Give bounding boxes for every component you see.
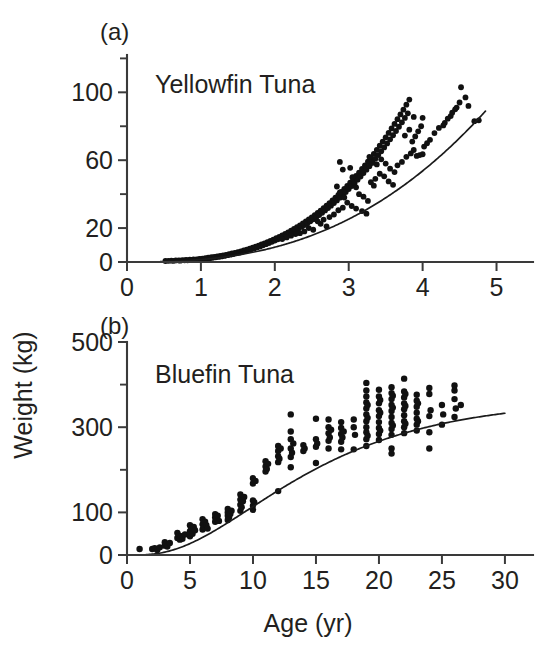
data-point xyxy=(314,440,320,446)
data-point xyxy=(290,440,296,446)
data-point xyxy=(363,387,369,393)
data-point xyxy=(252,478,258,484)
data-point xyxy=(426,445,432,451)
panel-a-label: (a) xyxy=(100,18,129,45)
y-axis-title: Weight (kg) xyxy=(9,331,37,458)
data-point xyxy=(451,414,457,420)
data-point xyxy=(340,167,346,173)
data-point xyxy=(351,424,357,430)
x-tick-label: 30 xyxy=(491,566,519,594)
data-point xyxy=(420,151,426,157)
data-point xyxy=(451,396,457,402)
data-point xyxy=(216,518,222,524)
data-point xyxy=(364,402,370,408)
y-tick-label: 100 xyxy=(71,78,113,106)
data-point xyxy=(411,114,417,120)
x-tick-label: 0 xyxy=(120,273,134,301)
y-tick-label: 0 xyxy=(99,248,113,276)
data-point xyxy=(341,195,347,201)
x-tick-label: 1 xyxy=(194,273,208,301)
x-tick-label: 5 xyxy=(183,566,197,594)
data-point xyxy=(445,116,451,122)
data-point xyxy=(466,103,472,109)
data-point xyxy=(440,411,446,417)
data-point xyxy=(376,419,382,425)
data-point xyxy=(458,402,464,408)
data-point xyxy=(325,445,331,451)
data-point xyxy=(288,428,294,434)
data-point xyxy=(288,411,294,417)
data-point xyxy=(392,169,398,175)
data-point xyxy=(406,127,412,133)
x-tick-label: 2 xyxy=(268,273,282,301)
data-point xyxy=(457,100,463,106)
data-point xyxy=(371,183,377,189)
y-tick-label: 0 xyxy=(99,541,113,569)
data-point xyxy=(426,385,432,391)
x-tick-label: 25 xyxy=(428,566,456,594)
data-point xyxy=(328,427,334,433)
data-point xyxy=(277,445,283,451)
data-point xyxy=(313,415,319,421)
data-point xyxy=(401,375,407,381)
data-point xyxy=(265,461,271,467)
data-point xyxy=(381,173,387,179)
figure-container: (a) Yellowfin Tuna 012345 02060100 (b) B… xyxy=(0,0,555,650)
data-point xyxy=(351,416,357,422)
data-point xyxy=(289,450,295,456)
y-tick-label: 60 xyxy=(85,146,113,174)
data-point xyxy=(432,130,438,136)
data-point xyxy=(364,415,370,421)
data-point xyxy=(338,419,344,425)
data-point xyxy=(352,432,358,438)
data-point xyxy=(427,407,433,413)
data-point xyxy=(334,184,340,190)
data-point xyxy=(310,227,316,233)
data-point xyxy=(415,400,421,406)
data-point xyxy=(192,527,198,533)
data-point xyxy=(340,428,346,434)
data-point xyxy=(390,404,396,410)
data-point xyxy=(405,110,411,116)
data-point xyxy=(414,410,420,416)
y-tick-label: 100 xyxy=(71,498,113,526)
data-point xyxy=(363,393,369,399)
data-point xyxy=(339,434,345,440)
data-point xyxy=(463,95,469,101)
panel-b-series-title: Bluefin Tuna xyxy=(155,360,294,388)
data-point xyxy=(388,414,394,420)
data-point xyxy=(415,128,421,134)
x-tick-label: 0 xyxy=(120,566,134,594)
data-point xyxy=(440,123,446,129)
data-point xyxy=(241,494,247,500)
data-point xyxy=(415,418,421,424)
data-point xyxy=(228,508,234,514)
data-point xyxy=(204,525,210,531)
data-point xyxy=(399,159,405,165)
data-point xyxy=(401,412,407,418)
y-tick-label: 300 xyxy=(71,413,113,441)
data-point xyxy=(363,424,369,430)
data-point xyxy=(406,97,412,103)
x-tick-label: 4 xyxy=(416,273,430,301)
data-point xyxy=(353,184,359,190)
data-point xyxy=(454,105,460,111)
data-point xyxy=(378,156,384,162)
tuna-growth-figure: (a) Yellowfin Tuna 012345 02060100 (b) B… xyxy=(0,0,555,650)
data-point xyxy=(401,107,407,113)
data-point xyxy=(377,397,383,403)
data-point xyxy=(365,198,371,204)
data-point xyxy=(390,392,396,398)
data-point xyxy=(338,446,344,452)
data-point xyxy=(427,137,433,143)
x-tick-label: 20 xyxy=(365,566,393,594)
data-point xyxy=(403,102,409,108)
data-point xyxy=(301,445,307,451)
data-point xyxy=(372,176,378,182)
x-axis-title: Age (yr) xyxy=(264,609,353,637)
y-tick-label: 500 xyxy=(71,328,113,356)
data-point xyxy=(353,206,359,212)
data-point xyxy=(402,421,408,427)
data-point xyxy=(321,217,327,223)
data-point xyxy=(327,434,333,440)
